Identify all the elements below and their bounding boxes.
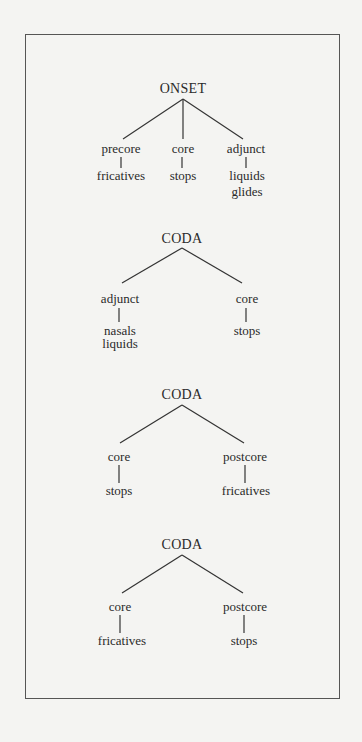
member-stops: stops — [170, 169, 197, 182]
member-liquids: liquids — [229, 169, 264, 182]
node-postcore: postcore — [223, 600, 267, 613]
node-postcore: postcore — [223, 450, 267, 463]
node-core: core — [172, 142, 194, 155]
tree-root-coda: CODA — [162, 538, 203, 551]
node-adjunct: adjunct — [227, 142, 265, 155]
diagram-frame — [25, 34, 340, 699]
node-precore: precore — [102, 142, 141, 155]
node-adjunct: adjunct — [101, 292, 139, 305]
member-fricatives: fricatives — [98, 634, 146, 647]
tree-root-onset: ONSET — [160, 82, 207, 95]
member-liquids: liquids — [102, 337, 137, 350]
member-stops: stops — [231, 634, 258, 647]
member-glides: glides — [231, 185, 262, 198]
member-fricatives: fricatives — [222, 484, 270, 497]
node-core: core — [109, 600, 131, 613]
member-fricatives: fricatives — [97, 169, 145, 182]
member-stops: stops — [106, 484, 133, 497]
node-core: core — [236, 292, 258, 305]
tree-root-coda: CODA — [162, 388, 203, 401]
node-core: core — [108, 450, 130, 463]
tree-root-coda: CODA — [162, 232, 203, 245]
member-stops: stops — [234, 324, 261, 337]
